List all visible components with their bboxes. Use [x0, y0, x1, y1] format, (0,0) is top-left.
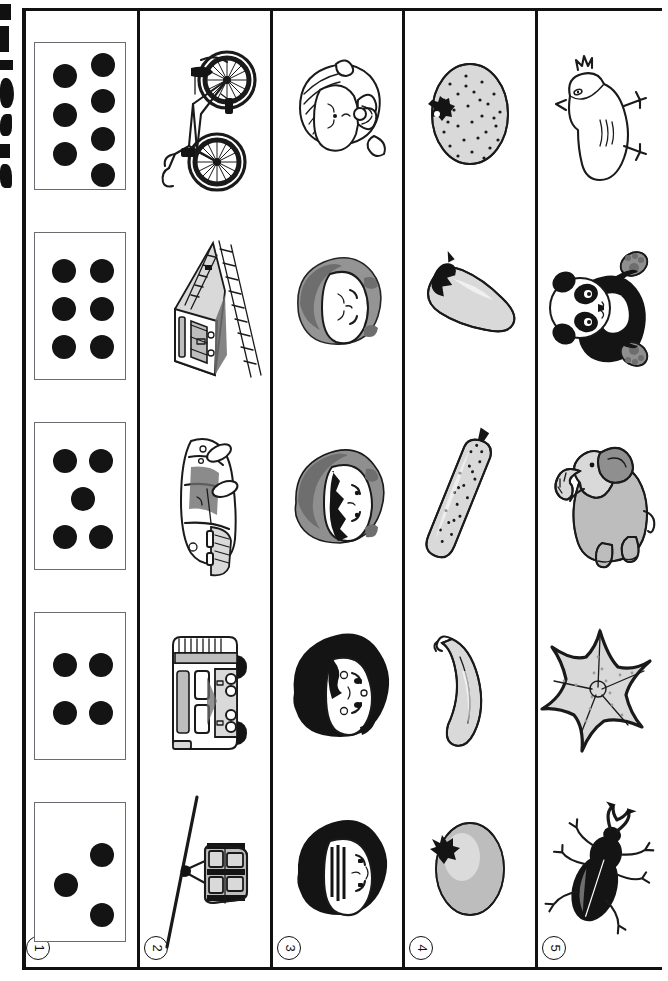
- animal-cell[interactable]: [538, 412, 662, 592]
- child-face-cell[interactable]: [273, 412, 402, 592]
- dot: [90, 335, 114, 359]
- dot: [54, 873, 78, 897]
- cable-car-picture[interactable]: [145, 797, 265, 947]
- animal-cell[interactable]: [538, 792, 662, 952]
- produce-cell[interactable]: [405, 412, 535, 592]
- dot: [53, 449, 77, 473]
- child-face-bangs-picture[interactable]: [278, 427, 398, 577]
- child-face-cell[interactable]: [273, 222, 402, 392]
- dot: [90, 843, 114, 867]
- dot: [52, 297, 76, 321]
- dot: [53, 653, 77, 677]
- produce-cell[interactable]: [405, 32, 535, 202]
- vehicle-cell[interactable]: [140, 222, 270, 397]
- column-animals: 5: [538, 8, 662, 970]
- dot-card-four[interactable]: [34, 612, 126, 760]
- train-picture[interactable]: [145, 235, 265, 385]
- elephant-picture[interactable]: [540, 427, 660, 577]
- vehicle-cell[interactable]: [140, 22, 270, 212]
- dot: [90, 297, 114, 321]
- dot-card-five[interactable]: [34, 422, 126, 570]
- vehicle-cell[interactable]: [140, 412, 270, 592]
- dot: [53, 701, 77, 725]
- child-face-cell[interactable]: [273, 602, 402, 782]
- cucumber-picture[interactable]: [410, 427, 530, 577]
- worksheet-page: 1 2: [0, 0, 668, 981]
- dot: [91, 163, 115, 187]
- dot: [53, 103, 77, 127]
- produce-cell[interactable]: [405, 602, 535, 782]
- vehicle-cell[interactable]: [140, 792, 270, 952]
- dot: [91, 53, 115, 77]
- dot-card-six[interactable]: [34, 232, 126, 380]
- dot-card-cell[interactable]: [22, 792, 137, 952]
- column-vehicles: 2: [140, 8, 273, 970]
- column-children-faces: 3: [273, 8, 405, 970]
- chick-picture[interactable]: [540, 42, 660, 192]
- potato-picture[interactable]: [410, 797, 530, 947]
- panda-picture[interactable]: [540, 232, 660, 382]
- dot: [89, 653, 113, 677]
- dot: [89, 449, 113, 473]
- eggplant-picture[interactable]: [410, 232, 530, 382]
- dot: [91, 89, 115, 113]
- car-picture[interactable]: [145, 427, 265, 577]
- child-face-with-bow-picture[interactable]: [278, 42, 398, 192]
- animal-cell[interactable]: [538, 32, 662, 202]
- beetle-picture[interactable]: [540, 797, 660, 947]
- bus-picture[interactable]: [145, 617, 265, 767]
- vehicle-cell[interactable]: [140, 602, 270, 782]
- dot-card-cell[interactable]: [22, 602, 137, 770]
- dot: [89, 525, 113, 549]
- page-edge-artifacts: [0, 4, 18, 194]
- bicycle-picture[interactable]: [145, 42, 265, 192]
- produce-cell[interactable]: [405, 222, 535, 392]
- child-face-cell[interactable]: [273, 792, 402, 952]
- produce-cell[interactable]: [405, 792, 535, 952]
- child-face-cell[interactable]: [273, 32, 402, 202]
- banana-picture[interactable]: [410, 617, 530, 767]
- dot: [53, 64, 77, 88]
- animal-cell[interactable]: [538, 602, 662, 782]
- dot: [91, 127, 115, 151]
- dot-card-three[interactable]: [34, 802, 126, 942]
- child-face-short-hair-picture[interactable]: [278, 232, 398, 382]
- strawberry-picture[interactable]: [410, 42, 530, 192]
- dot-card-seven[interactable]: [34, 42, 126, 190]
- starfish-picture[interactable]: [540, 617, 660, 767]
- child-face-dark-hair-picture[interactable]: [278, 617, 398, 767]
- child-face-cap-picture[interactable]: [278, 797, 398, 947]
- dot: [90, 259, 114, 283]
- dot: [53, 142, 77, 166]
- dot: [52, 259, 76, 283]
- dot: [71, 487, 95, 511]
- dot: [52, 335, 76, 359]
- column-dot-cards: 1: [22, 8, 140, 970]
- dot-card-cell[interactable]: [22, 32, 137, 200]
- dot-card-cell[interactable]: [22, 222, 137, 390]
- animal-cell[interactable]: [538, 222, 662, 392]
- dot: [90, 903, 114, 927]
- dot-card-cell[interactable]: [22, 412, 137, 580]
- dot: [53, 525, 77, 549]
- column-produce: 4: [405, 8, 538, 970]
- dot: [89, 701, 113, 725]
